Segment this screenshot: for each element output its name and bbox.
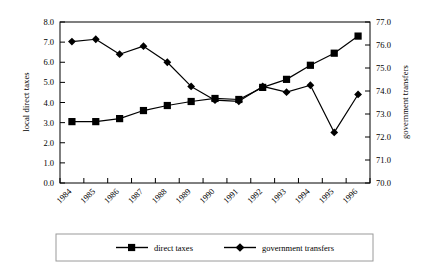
data-point-square[interactable]	[307, 62, 314, 69]
data-point-square[interactable]	[92, 118, 99, 125]
right-axis-tick-label: 70.0	[376, 178, 391, 188]
x-axis-tick-label: 1985	[78, 186, 97, 205]
data-point-square[interactable]	[68, 118, 75, 125]
x-axis-tick-label: 1987	[126, 186, 145, 205]
left-axis-tick-label: 2.0	[43, 138, 54, 148]
square-marker-icon	[128, 244, 135, 251]
right-axis-title: government transfers	[400, 65, 410, 139]
right-axis-tick-label: 71.0	[376, 155, 391, 165]
data-point-square[interactable]	[354, 32, 361, 39]
x-axis-tick-label: 1991	[221, 186, 240, 205]
x-axis-tick-label: 1990	[197, 186, 216, 205]
right-axis-tick-label: 77.0	[376, 17, 391, 27]
data-point-square[interactable]	[331, 50, 338, 57]
x-axis-tick-label: 1989	[173, 186, 192, 205]
legend-label-direct-taxes: direct taxes	[154, 243, 193, 253]
x-axis-tick-label: 1994	[293, 186, 313, 206]
left-axis-tick-label: 0.0	[43, 178, 54, 188]
data-point-square[interactable]	[188, 98, 195, 105]
left-axis-title: local direct taxes	[21, 72, 31, 131]
data-point-square[interactable]	[164, 102, 171, 109]
legend-label-government-transfers: government transfers	[262, 243, 334, 253]
dual-axis-line-chart: 0.01.02.03.04.05.06.07.08.0 70.071.072.0…	[0, 0, 428, 269]
right-axis-tick-label: 73.0	[376, 109, 391, 119]
left-axis-tick-label: 3.0	[43, 118, 54, 128]
legend: direct taxes government transfers	[56, 234, 373, 261]
left-axis-tick-label: 4.0	[43, 98, 54, 108]
left-axis-tick-labels: 0.01.02.03.04.05.06.07.08.0	[43, 17, 54, 188]
right-axis-tick-label: 74.0	[376, 86, 391, 96]
x-axis-tick-label: 1995	[317, 186, 336, 205]
x-axis-tick-label: 1988	[150, 186, 169, 205]
x-axis-tick-label: 1993	[269, 186, 288, 205]
right-axis-tick-label: 76.0	[376, 40, 391, 50]
x-axis-tick-label: 1986	[102, 186, 121, 205]
left-axis-tick-label: 5.0	[43, 77, 54, 87]
x-axis-tick-label: 1996	[340, 186, 359, 205]
left-axis-tick-label: 8.0	[43, 17, 54, 27]
data-point-square[interactable]	[116, 115, 123, 122]
chart-figure: 0.01.02.03.04.05.06.07.08.0 70.071.072.0…	[0, 0, 428, 269]
right-axis-tick-label: 72.0	[376, 132, 391, 142]
right-axis-tick-labels: 70.071.072.073.074.075.076.077.0	[376, 17, 391, 188]
left-axis-tick-label: 7.0	[43, 37, 54, 47]
right-axis-tick-label: 75.0	[376, 63, 391, 73]
x-axis-tick-label: 1984	[54, 186, 74, 206]
x-axis-tick-labels: 1984198519861987198819891990199119921993…	[54, 186, 359, 206]
data-point-square[interactable]	[140, 107, 147, 114]
left-axis-tick-label: 6.0	[43, 57, 54, 67]
left-axis-tick-label: 1.0	[43, 158, 54, 168]
x-axis-tick-label: 1992	[245, 186, 264, 205]
data-point-square[interactable]	[283, 76, 290, 83]
